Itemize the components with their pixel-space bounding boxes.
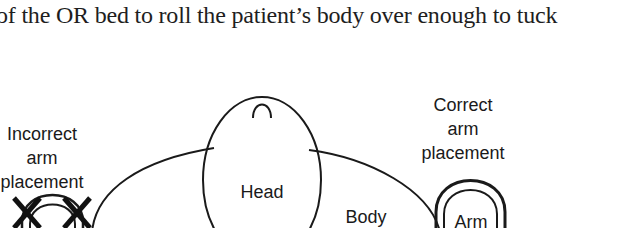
head-label: Head — [232, 180, 292, 204]
incorrect-arm-label: Incorrect arm placement — [0, 122, 92, 194]
arm-label: Arm — [441, 210, 501, 228]
nose-bump — [253, 105, 271, 119]
body-label: Body — [336, 205, 396, 228]
body-outline-left — [92, 148, 214, 228]
head-outline — [203, 97, 321, 228]
arm-placement-diagram — [0, 0, 628, 228]
correct-arm-label: Correct arm placement — [413, 93, 513, 165]
x-mark-icon — [14, 198, 90, 228]
